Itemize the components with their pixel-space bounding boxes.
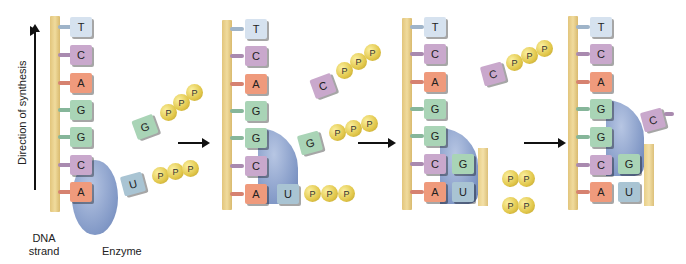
step-arrow	[178, 142, 208, 144]
base-c: C	[245, 156, 267, 176]
base-c: C	[590, 155, 612, 175]
base-t: T	[70, 17, 92, 37]
dna-strand	[222, 20, 232, 210]
base-g: G	[424, 99, 446, 119]
stem	[576, 135, 590, 139]
base-g: G	[590, 99, 612, 119]
incoming-base-c: C	[640, 107, 666, 132]
phosphate: P	[329, 124, 346, 141]
base-a: A	[70, 182, 92, 202]
incoming-base-u: U	[120, 171, 146, 196]
stem	[576, 163, 590, 167]
base-a: A	[590, 182, 612, 202]
base-g: G	[424, 126, 446, 146]
phosphate: P	[518, 197, 535, 214]
synthesized-base-g: G	[452, 154, 474, 174]
stem	[664, 112, 674, 116]
base-c: C	[70, 155, 92, 175]
base-c: C	[590, 44, 612, 64]
incoming-base-c: C	[480, 61, 506, 86]
base-t: T	[245, 19, 267, 39]
enzyme-label: Enzyme	[102, 245, 142, 258]
synthesized-base-u: U	[277, 184, 299, 204]
stem	[230, 27, 244, 31]
stem	[230, 192, 244, 196]
base-c: C	[424, 44, 446, 64]
incoming-base-c: C	[309, 73, 337, 99]
base-g: G	[245, 128, 267, 148]
base-g: G	[590, 127, 612, 147]
rna-strand	[478, 148, 488, 206]
stem	[230, 54, 244, 58]
stem	[576, 190, 590, 194]
rna-strand	[644, 144, 654, 206]
step-arrow	[524, 142, 564, 144]
dna-strand-label: DNAstrand	[24, 232, 64, 258]
base-t: T	[424, 17, 446, 37]
phosphate: P	[345, 120, 362, 137]
base-a: A	[245, 74, 267, 94]
stem	[576, 80, 590, 84]
phosphate: P	[321, 185, 338, 202]
dna-strand	[402, 18, 412, 210]
stem	[410, 52, 424, 56]
step-arrow	[358, 142, 394, 144]
direction-arrowhead	[30, 24, 40, 32]
direction-arrow	[34, 30, 36, 190]
base-a: A	[424, 182, 446, 202]
base-c: C	[424, 154, 446, 174]
stem	[410, 190, 424, 194]
phosphate: P	[182, 160, 199, 177]
base-c: C	[70, 45, 92, 65]
incoming-base-g: G	[297, 130, 323, 155]
stem	[576, 52, 590, 56]
stem	[410, 134, 424, 138]
base-a: A	[424, 72, 446, 92]
phosphate: P	[338, 185, 355, 202]
base-c: C	[245, 46, 267, 66]
incoming-base-g: G	[131, 114, 159, 140]
stem	[410, 162, 424, 166]
stem	[410, 107, 424, 111]
base-g: G	[70, 127, 92, 147]
phosphate: P	[502, 197, 519, 214]
base-t: T	[590, 17, 612, 37]
base-a: A	[245, 184, 267, 204]
stem	[230, 136, 244, 140]
phosphate: P	[364, 44, 381, 61]
phosphate: P	[502, 170, 519, 187]
stem	[230, 82, 244, 86]
dna-strand	[50, 16, 60, 212]
synthesized-base-g: G	[618, 154, 640, 174]
base-g: G	[70, 100, 92, 120]
phosphate: P	[361, 115, 378, 132]
synthesized-base-u: U	[618, 182, 640, 202]
stem	[576, 107, 590, 111]
synthesized-base-u: U	[452, 182, 474, 202]
phosphate: P	[518, 170, 535, 187]
stem	[576, 25, 590, 29]
dna-strand	[568, 16, 578, 210]
base-a: A	[590, 72, 612, 92]
phosphate: P	[536, 40, 553, 57]
stem	[230, 109, 244, 113]
direction-label: Direction of synthesis	[16, 60, 28, 165]
phosphate: P	[186, 84, 203, 101]
phosphate: P	[304, 185, 321, 202]
stem	[410, 25, 424, 29]
stem	[410, 80, 424, 84]
base-g: G	[245, 101, 267, 121]
base-a: A	[70, 73, 92, 93]
stem	[230, 164, 244, 168]
